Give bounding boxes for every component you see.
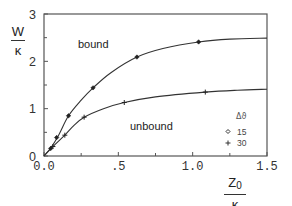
diamond-marker-icon [135, 55, 139, 59]
diamond-marker-icon [196, 40, 200, 44]
y-tick-label: 2 [29, 55, 36, 69]
annotation-unbound: unbound [130, 120, 173, 132]
x-axis-label-subscript: 0 [236, 180, 242, 191]
plus-marker-icon [203, 90, 208, 95]
x-axis-label-denominator: κ [232, 197, 239, 206]
diamond-marker-icon [226, 130, 230, 134]
x-axis-label: Z0 κ [222, 176, 248, 206]
x-tick-label: 1.5 [256, 160, 278, 174]
fraction-bar [224, 194, 246, 195]
y-tick-label: 1 [29, 102, 36, 116]
plot-frame [44, 14, 267, 156]
y-tick-label: 0 [29, 150, 36, 164]
plus-marker-icon [122, 100, 127, 105]
x-axis-label-numerator: Z0 [228, 175, 242, 190]
legend-label-30: 30 [237, 138, 247, 148]
x-tick-label: 0.0 [33, 160, 55, 174]
y-axis-label: W κ [11, 25, 25, 57]
data-curves [44, 38, 267, 156]
legend-title: Δϑ [236, 112, 246, 121]
x-axis-label-main: Z [228, 175, 236, 190]
legend-label-15: 15 [237, 127, 247, 137]
chart-canvas: 0.0.51.01.50123 bound unbound Δϑ 15 30 [0, 0, 292, 206]
y-tick-label: 3 [29, 8, 36, 22]
axis-ticks [44, 14, 267, 156]
plus-marker-icon [226, 141, 231, 146]
fraction-bar [11, 40, 25, 41]
x-tick-label: .5 [111, 160, 125, 174]
y-axis-label-denominator: κ [15, 43, 22, 58]
legend: Δϑ 15 30 [226, 112, 247, 148]
y-axis-label-numerator: W [12, 24, 24, 39]
data-markers [48, 40, 207, 151]
x-tick-label: 1.0 [182, 160, 204, 174]
plot-border [44, 14, 267, 156]
annotation-bound: bound [78, 38, 109, 50]
axis-tick-labels: 0.0.51.01.50123 [29, 8, 278, 175]
